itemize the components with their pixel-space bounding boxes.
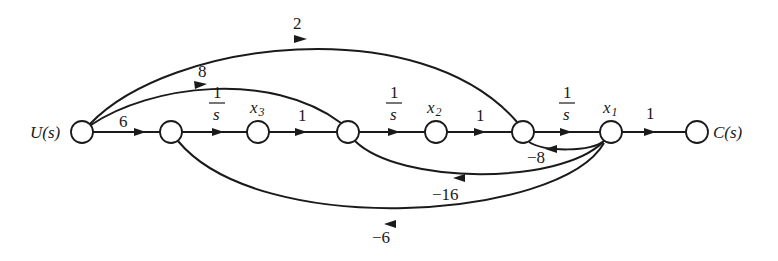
arrow-icon <box>474 128 486 136</box>
node-x1 <box>600 121 622 143</box>
x1-label: x1 <box>602 98 618 119</box>
node-input-u <box>71 121 93 143</box>
gain-8: 8 <box>198 62 207 81</box>
gain-6: 6 <box>119 112 128 131</box>
gain-x3-n4: 1 <box>298 106 307 125</box>
x3-label: x3 <box>249 98 265 119</box>
x2-label: x2 <box>426 98 442 119</box>
arrow-icon <box>384 220 396 228</box>
arrow-icon <box>644 128 656 136</box>
edge-x1-n4-gain-m16 <box>355 141 603 174</box>
signal-flow-graph: U(s) C(s) x3 x2 x1 6 2 8 1 s 1 s 1 s 1 1… <box>0 0 778 261</box>
gain-1-over-s-den-3: s <box>563 105 570 124</box>
node-labels: U(s) C(s) x3 x2 x1 <box>30 98 743 142</box>
arrow-icon <box>134 128 146 136</box>
node-output-c <box>686 121 708 143</box>
gain-1-over-s-num-1: 1 <box>213 83 222 102</box>
node-4 <box>337 121 359 143</box>
gain-1-over-s-den-2: s <box>390 105 397 124</box>
input-label: U(s) <box>30 123 61 142</box>
gain-labels: 6 2 8 1 s 1 s 1 s 1 1 1 −8 −16 −6 <box>119 14 655 247</box>
gain-1-over-s-num-3: 1 <box>563 83 572 102</box>
node-x3 <box>247 121 269 143</box>
gain-1-over-s-den-1: s <box>213 105 220 124</box>
node-x2 <box>425 121 447 143</box>
node-2 <box>160 121 182 143</box>
gain-1-over-s-num-2: 1 <box>390 83 399 102</box>
gain-2: 2 <box>293 14 302 33</box>
output-label: C(s) <box>713 123 743 142</box>
node-6 <box>512 121 534 143</box>
arrow-icon <box>212 128 224 136</box>
arrow-icon <box>295 128 307 136</box>
arrow-icon <box>194 81 207 89</box>
arrow-icon <box>560 128 572 136</box>
gain-minus-6: −6 <box>372 228 390 247</box>
arrow-icon <box>545 145 557 153</box>
gain-minus-8: −8 <box>527 148 545 167</box>
gain-x2-n6: 1 <box>476 106 485 125</box>
gain-minus-16: −16 <box>432 185 459 204</box>
gain-x1-c: 1 <box>646 104 655 123</box>
arrow-icon <box>388 128 400 136</box>
arrow-icon <box>453 174 465 182</box>
arrow-icon <box>294 35 307 43</box>
